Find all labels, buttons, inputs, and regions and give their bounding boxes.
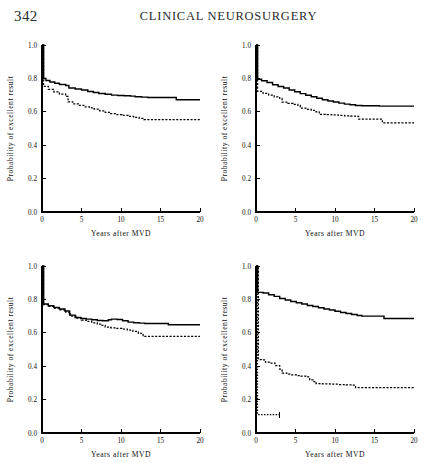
svg-text:1.0: 1.0 xyxy=(28,42,37,50)
svg-text:0.2: 0.2 xyxy=(28,396,37,404)
svg-text:0.4: 0.4 xyxy=(242,142,251,150)
svg-text:0: 0 xyxy=(254,437,258,445)
curve-dotted-short xyxy=(256,266,280,415)
svg-text:0.0: 0.0 xyxy=(28,430,37,438)
svg-text:0.6: 0.6 xyxy=(28,329,37,337)
svg-text:0.8: 0.8 xyxy=(242,75,251,83)
svg-text:1.0: 1.0 xyxy=(242,42,251,50)
kaplan-meier-plot: 0.00.20.40.60.81.005101520Years after MV… xyxy=(0,28,214,249)
svg-text:0.4: 0.4 xyxy=(242,363,251,371)
curve-solid xyxy=(42,45,200,100)
svg-text:0.2: 0.2 xyxy=(242,175,251,183)
chart-panel-bottom-left: 0.00.20.40.60.81.005101520Years after MV… xyxy=(0,249,214,470)
svg-text:Years after MVD: Years after MVD xyxy=(305,450,365,459)
svg-text:10: 10 xyxy=(117,216,125,224)
curve-dashed xyxy=(42,45,200,120)
chart-panel-top-right: 0.00.20.40.60.81.005101520Years after MV… xyxy=(214,28,428,249)
svg-text:5: 5 xyxy=(80,437,84,445)
svg-text:1.0: 1.0 xyxy=(242,263,251,271)
svg-text:5: 5 xyxy=(80,216,84,224)
curve-solid xyxy=(256,266,414,318)
svg-text:0.4: 0.4 xyxy=(28,363,37,371)
kaplan-meier-plot: 0.00.20.40.60.81.005101520Years after MV… xyxy=(0,249,214,470)
svg-text:0.4: 0.4 xyxy=(28,142,37,150)
svg-text:1.0: 1.0 xyxy=(28,263,37,271)
kaplan-meier-plot: 0.00.20.40.60.81.005101520Years after MV… xyxy=(214,249,428,470)
svg-text:0.8: 0.8 xyxy=(28,296,37,304)
svg-text:5: 5 xyxy=(294,216,298,224)
curve-dashed xyxy=(256,45,414,123)
running-head: CLINICAL NEUROSURGERY xyxy=(0,9,429,24)
page-header: 342 CLINICAL NEUROSURGERY xyxy=(0,8,429,28)
svg-text:15: 15 xyxy=(371,437,379,445)
svg-text:0: 0 xyxy=(40,216,44,224)
curve-dashed xyxy=(42,266,200,336)
kaplan-meier-plot: 0.00.20.40.60.81.005101520Years after MV… xyxy=(214,28,428,249)
svg-text:0: 0 xyxy=(254,216,258,224)
svg-text:15: 15 xyxy=(157,216,165,224)
svg-text:20: 20 xyxy=(196,437,204,445)
chart-panel-bottom-right: 0.00.20.40.60.81.005101520Years after MV… xyxy=(214,249,428,470)
svg-text:10: 10 xyxy=(331,437,339,445)
svg-text:0.6: 0.6 xyxy=(242,108,251,116)
svg-text:10: 10 xyxy=(117,437,125,445)
svg-text:0.0: 0.0 xyxy=(28,209,37,217)
svg-text:20: 20 xyxy=(410,216,418,224)
svg-text:0.2: 0.2 xyxy=(28,175,37,183)
curve-solid xyxy=(42,266,200,325)
svg-text:Years after MVD: Years after MVD xyxy=(91,229,151,238)
svg-text:0.0: 0.0 xyxy=(242,209,251,217)
chart-panel-top-left: 0.00.20.40.60.81.005101520Years after MV… xyxy=(0,28,214,249)
svg-text:0.0: 0.0 xyxy=(242,430,251,438)
svg-text:Years after MVD: Years after MVD xyxy=(91,450,151,459)
svg-text:10: 10 xyxy=(331,216,339,224)
figure-grid: 0.00.20.40.60.81.005101520Years after MV… xyxy=(0,28,429,470)
svg-text:20: 20 xyxy=(410,437,418,445)
svg-text:0.6: 0.6 xyxy=(28,108,37,116)
svg-text:Probability of excellent resul: Probability of excellent result xyxy=(220,75,229,181)
svg-text:Probability of excellent resul: Probability of excellent result xyxy=(6,296,15,402)
svg-text:0.6: 0.6 xyxy=(242,329,251,337)
svg-text:Years after MVD: Years after MVD xyxy=(305,229,365,238)
svg-text:0: 0 xyxy=(40,437,44,445)
svg-text:Probability of excellent resul: Probability of excellent result xyxy=(6,75,15,181)
svg-text:15: 15 xyxy=(157,437,165,445)
svg-text:20: 20 xyxy=(196,216,204,224)
svg-text:5: 5 xyxy=(294,437,298,445)
svg-text:Probability of excellent resul: Probability of excellent result xyxy=(220,296,229,402)
svg-text:0.2: 0.2 xyxy=(242,396,251,404)
svg-text:0.8: 0.8 xyxy=(242,296,251,304)
curve-dashed xyxy=(256,266,414,388)
svg-text:15: 15 xyxy=(371,216,379,224)
svg-text:0.8: 0.8 xyxy=(28,75,37,83)
